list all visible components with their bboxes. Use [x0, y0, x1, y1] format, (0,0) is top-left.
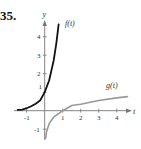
y-tick-label: -1: [34, 126, 40, 134]
x-axis-arrow-icon: [126, 109, 132, 113]
x-axis-label: t: [133, 107, 136, 116]
y-axis-arrow-icon: [43, 20, 47, 26]
f-curve-label: f(t): [65, 19, 75, 28]
y-axis-label: y: [42, 10, 47, 19]
y-tick-label: 4: [37, 33, 41, 41]
g-curve-label: g(t): [106, 81, 118, 90]
x-tick-label: 2: [79, 114, 83, 122]
y-tick-label: 2: [37, 70, 41, 78]
x-tick-label: 1: [61, 114, 65, 122]
graph-figure: 35. -1 1 2 3 4 4 3 2 1 -1 t y f(t) g(t): [0, 0, 141, 149]
x-tick-label: -1: [24, 114, 30, 122]
y-tick-label: 3: [37, 52, 41, 60]
problem-number: 35.: [0, 8, 16, 23]
y-tick-label: 1: [39, 83, 43, 91]
x-tick-label: 4: [115, 114, 119, 122]
x-tick-label: 3: [97, 114, 101, 122]
